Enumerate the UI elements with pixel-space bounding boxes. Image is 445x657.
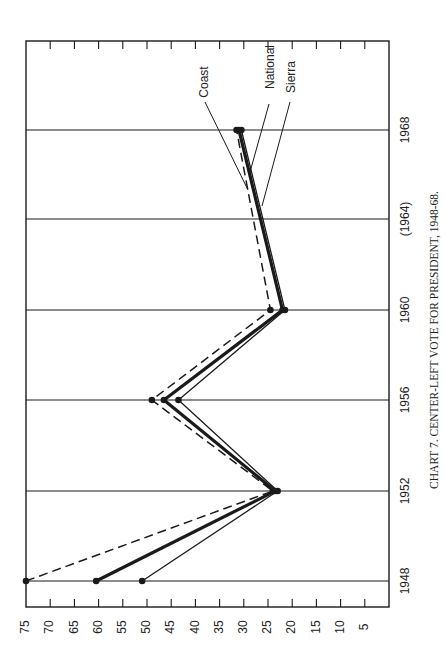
tick-label: 10 bbox=[333, 620, 347, 634]
tick-label: 20 bbox=[284, 620, 298, 634]
series-label-sierra: Sierra bbox=[284, 61, 298, 93]
tick-label: 5 bbox=[357, 623, 371, 630]
data-point bbox=[274, 488, 281, 495]
tick-label: 30 bbox=[236, 620, 250, 634]
year-label: 1968 bbox=[398, 116, 412, 143]
tick-label: 65 bbox=[67, 620, 81, 634]
data-point bbox=[149, 397, 156, 404]
data-point bbox=[161, 397, 168, 404]
data-point bbox=[267, 307, 274, 314]
series-sierra bbox=[139, 127, 288, 585]
year-label: 1960 bbox=[398, 296, 412, 323]
tick-label: 55 bbox=[115, 620, 129, 634]
tick-label: 60 bbox=[91, 620, 105, 634]
value-axis-ticks bbox=[50, 41, 365, 607]
tick-label: 40 bbox=[188, 620, 202, 634]
data-point bbox=[238, 127, 245, 134]
year-label: 1948 bbox=[398, 567, 412, 594]
chart: 75706560555045403530252015105 1948195219… bbox=[0, 0, 445, 657]
tick-label: 70 bbox=[42, 620, 56, 634]
year-label: 1952 bbox=[398, 477, 412, 504]
year-label: (1964) bbox=[398, 202, 412, 237]
tick-label: 35 bbox=[212, 620, 226, 634]
tick-label: 75 bbox=[18, 620, 32, 634]
data-point bbox=[93, 578, 100, 585]
data-point bbox=[175, 397, 182, 404]
tick-label: 25 bbox=[260, 620, 274, 634]
year-gridlines bbox=[26, 130, 389, 581]
data-point bbox=[23, 578, 30, 585]
series-lines bbox=[23, 127, 289, 585]
year-axis-labels: 1948195219561960(1964)1968 bbox=[398, 116, 412, 594]
series-coast bbox=[23, 127, 276, 585]
year-label: 1956 bbox=[398, 386, 412, 413]
tick-label: 50 bbox=[139, 620, 153, 634]
data-point bbox=[139, 578, 146, 585]
value-axis-labels: 75706560555045403530252015105 bbox=[18, 620, 371, 634]
plot-frame bbox=[26, 41, 389, 607]
series-label-coast: Coast bbox=[197, 66, 211, 98]
tick-label: 15 bbox=[309, 620, 323, 634]
tick-label: 45 bbox=[163, 620, 177, 634]
data-point bbox=[282, 307, 289, 314]
series-label-national: National bbox=[263, 45, 277, 89]
chart-caption: CHART 7. CENTER-LEFT VOTE FOR PRESIDENT,… bbox=[428, 191, 441, 489]
series-labels: CoastNationalSierra bbox=[197, 45, 298, 98]
